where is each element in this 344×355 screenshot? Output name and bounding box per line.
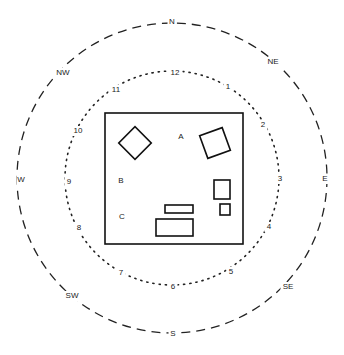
compass-label-nw: NW bbox=[56, 68, 70, 77]
compass-label-e: E bbox=[322, 174, 327, 183]
objects-group bbox=[119, 127, 231, 236]
compass-label-n: N bbox=[169, 17, 175, 26]
clock-label-10: 10 bbox=[74, 126, 83, 135]
compass-label-w: W bbox=[17, 175, 25, 184]
compass-diagram: NNEESESSWWNW 121234567891011 ABC bbox=[0, 0, 344, 355]
compass-label-se: SE bbox=[283, 282, 294, 291]
tilted-square-object bbox=[200, 128, 231, 159]
clock-label-4: 4 bbox=[267, 222, 272, 231]
clock-label-5: 5 bbox=[229, 267, 234, 276]
tall-rect-object bbox=[214, 180, 230, 199]
clock-label-3: 3 bbox=[278, 174, 283, 183]
clock-label-6: 6 bbox=[171, 282, 176, 291]
wide-rect-object bbox=[156, 219, 193, 236]
inner-clock-ring bbox=[65, 71, 279, 285]
clock-label-9: 9 bbox=[67, 177, 72, 186]
thin-rect-object bbox=[165, 205, 193, 213]
main-room-box bbox=[105, 113, 243, 244]
compass-label-sw: SW bbox=[66, 291, 79, 300]
compass-label-s: S bbox=[170, 329, 175, 338]
clock-label-2: 2 bbox=[261, 120, 266, 129]
clock-label-8: 8 bbox=[77, 223, 82, 232]
diagram-canvas: NNEESESSWWNW 121234567891011 ABC bbox=[0, 0, 344, 355]
small-square-object bbox=[220, 204, 230, 215]
clock-label-7: 7 bbox=[119, 268, 124, 277]
zone-labels: ABC bbox=[118, 132, 184, 221]
clock-label-12: 12 bbox=[171, 68, 180, 77]
zone-label-b: B bbox=[118, 176, 123, 185]
diamond-object bbox=[119, 127, 152, 160]
compass-label-ne: NE bbox=[267, 57, 278, 66]
clock-label-1: 1 bbox=[226, 82, 231, 91]
zone-label-a: A bbox=[178, 132, 184, 141]
zone-label-c: C bbox=[119, 212, 125, 221]
clock-label-11: 11 bbox=[112, 85, 121, 94]
